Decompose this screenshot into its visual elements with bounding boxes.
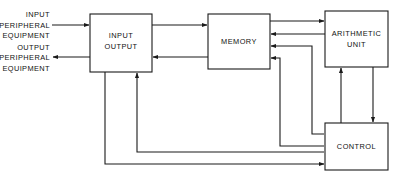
block-control-label: CONTROL	[337, 142, 376, 151]
wire-control-to-io	[137, 73, 324, 152]
block-input-output-label-line1: INPUT	[109, 31, 133, 40]
block-input-output-label-line2: OUTPUT	[104, 42, 137, 51]
wire-control-to-memory-upper	[271, 46, 324, 134]
block-arithmetic-unit-label-line1: ARITHMETIC	[332, 29, 382, 38]
block-arithmetic-unit-label-line2: UNIT	[347, 40, 366, 49]
block-memory-label: MEMORY	[221, 37, 257, 46]
output-peripheral-label-line2: PERIPHERAL	[0, 53, 50, 62]
block-diagram-canvas: INPUT OUTPUT MEMORY ARITHMETIC UNIT CONT…	[0, 0, 400, 188]
input-peripheral-label-line3: EQUIPMENT	[2, 31, 50, 40]
wire-io-to-control	[105, 72, 324, 164]
diagram-svg: INPUT OUTPUT MEMORY ARITHMETIC UNIT CONT…	[0, 0, 400, 188]
input-peripheral-label-line2: PERIPHERAL	[0, 21, 50, 30]
input-peripheral-label-line1: INPUT	[26, 10, 50, 19]
output-peripheral-label-line1: OUTPUT	[17, 43, 50, 52]
output-peripheral-label-line3: EQUIPMENT	[2, 64, 50, 73]
wire-control-to-memory-lower	[271, 58, 324, 146]
